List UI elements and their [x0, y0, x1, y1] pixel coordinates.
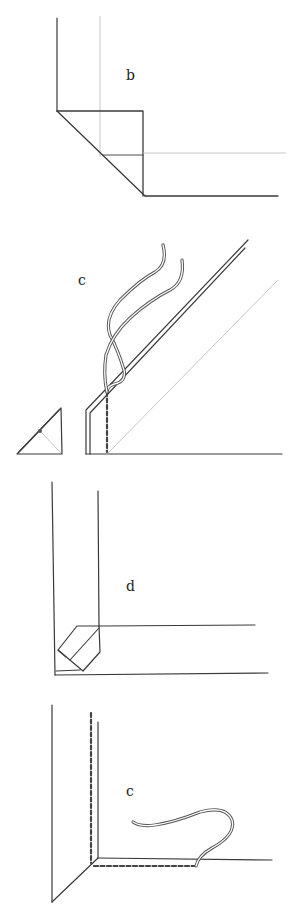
step-d-panel: d [0, 470, 291, 680]
step-c-panel: c [0, 220, 291, 470]
miter-seam [70, 628, 99, 660]
hem-fold-horizontal [99, 625, 255, 626]
corner-diagonal [52, 858, 98, 902]
step-b-panel: b [0, 0, 291, 220]
hem-fold-vertical [98, 491, 99, 626]
step-b-drawing [0, 0, 291, 220]
step-label-d: d [126, 579, 135, 593]
step-e-drawing [0, 680, 291, 905]
miter-diagonal [57, 111, 145, 196]
mitered-corner [58, 626, 100, 671]
step-d-drawing [0, 470, 291, 680]
triangle-knot [38, 429, 42, 433]
step-label-c: c [78, 273, 86, 287]
step-label-e: c [126, 784, 134, 798]
outer-left-edge [52, 482, 55, 675]
step-label-b: b [126, 68, 135, 82]
step-e-panel: c [0, 680, 291, 905]
step-c-drawing [0, 220, 291, 470]
hem-fold-horizontal [98, 858, 272, 860]
thread-strand-1 [107, 245, 164, 392]
outer-bottom-edge [55, 673, 268, 675]
triangle-guide [40, 431, 61, 453]
folded-edge-inner [90, 248, 245, 454]
